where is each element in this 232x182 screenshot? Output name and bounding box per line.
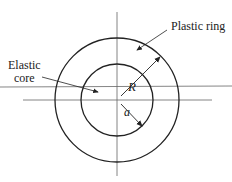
elastic-core-leader bbox=[42, 77, 98, 92]
plastic-ring-label: Plastic ring bbox=[171, 20, 225, 33]
diagram: Plastic ring Elastic core R a bbox=[0, 0, 232, 182]
a-label: a bbox=[124, 106, 130, 119]
plastic-ring-leader bbox=[137, 30, 167, 50]
horizontal-axis-upper bbox=[0, 86, 232, 87]
R-dimension-arrow bbox=[121, 57, 160, 96]
elastic-core-label-line2: core bbox=[14, 72, 35, 85]
R-label: R bbox=[128, 80, 136, 93]
